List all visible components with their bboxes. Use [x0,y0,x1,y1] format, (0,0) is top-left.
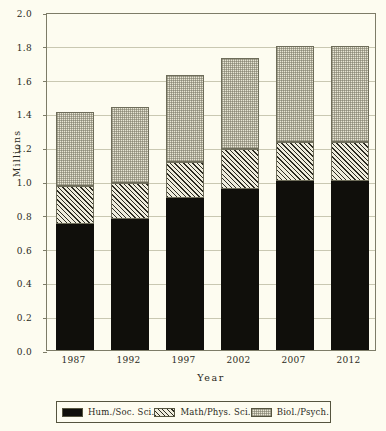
legend-entry-1[interactable]: Math/Phys. Sci. [154,407,250,417]
y-tick-mark [43,352,47,353]
chart-page: Millions 0.00.20.40.60.81.01.21.41.61.82… [0,0,386,431]
y-tick-label: 1.0 [0,178,32,188]
gridline [47,250,375,251]
gridline [47,216,375,217]
bar-segment-1997-series0 [166,198,204,350]
bar-1987 [56,12,94,350]
y-tick-mark [43,115,47,116]
y-tick-label: 0.0 [0,347,32,357]
bar-segment-1992-series1 [111,183,149,219]
x-tick-label-2007: 2007 [264,355,324,365]
legend-swatch-2 [251,408,272,417]
legend-entry-2[interactable]: Biol./Psych. [251,407,329,417]
gridline [47,183,375,184]
chart-title [0,0,386,9]
plot-area: 0.00.20.40.60.81.01.21.41.61.82.0 [46,13,376,351]
y-tick-mark [43,250,47,251]
bar-segment-2002-series2 [221,58,259,149]
x-tick-label-2002: 2002 [209,355,269,365]
legend-label-1: Math/Phys. Sci. [180,407,250,417]
legend-swatch-0 [62,408,83,417]
bar-segment-1987-series2 [56,112,94,186]
x-tick-label-2012: 2012 [319,355,379,365]
bar-segment-2007-series2 [276,46,314,142]
x-tick-label-1987: 1987 [44,355,104,365]
bar-segment-2012-series1 [331,142,369,181]
legend-label-2: Biol./Psych. [277,407,329,417]
x-tick-label-1992: 1992 [99,355,159,365]
y-tick-label: 1.8 [0,43,32,53]
y-tick-label: 0.4 [0,279,32,289]
gridline [47,115,375,116]
bar-segment-1997-series1 [166,162,204,197]
bar-2012 [331,12,369,350]
y-tick-mark [43,47,47,48]
legend-label-0: Hum./Soc. Sci. [88,407,154,417]
gridline [47,149,375,150]
bar-1992 [111,12,149,350]
y-tick-mark [43,149,47,150]
y-tick-mark [43,183,47,184]
y-tick-label: 1.2 [0,144,32,154]
y-tick-label: 0.6 [0,246,32,256]
y-tick-label: 0.8 [0,212,32,222]
y-tick-mark [43,81,47,82]
bar-segment-2002-series1 [221,149,259,189]
y-tick-label: 0.2 [0,313,32,323]
legend-entry-0[interactable]: Hum./Soc. Sci. [62,407,154,417]
gridline [47,318,375,319]
bar-segment-1987-series1 [56,186,94,224]
y-tick-label: 2.0 [0,9,32,19]
legend-swatch-1 [154,408,175,417]
bar-segment-1997-series2 [166,75,204,163]
y-tick-mark [43,216,47,217]
y-tick-label: 1.4 [0,110,32,120]
bar-2002 [221,12,259,350]
x-axis-label: Year [46,372,376,383]
bar-segment-2002-series0 [221,189,259,350]
bar-1997 [166,12,204,350]
y-tick-mark [43,284,47,285]
y-tick-mark [43,14,47,15]
gridline [47,47,375,48]
bar-segment-2012-series2 [331,46,369,142]
x-tick-label-1997: 1997 [154,355,214,365]
bar-segment-1992-series2 [111,107,149,183]
y-tick-label: 1.6 [0,77,32,87]
chart-legend: Hum./Soc. Sci.Math/Phys. Sci.Biol./Psych… [56,401,331,423]
bar-segment-2007-series0 [276,181,314,350]
bar-segment-2012-series0 [331,181,369,350]
gridline [47,284,375,285]
y-tick-mark [43,318,47,319]
bar-segment-1992-series0 [111,219,149,350]
bar-2007 [276,12,314,350]
bar-segment-1987-series0 [56,224,94,350]
gridline [47,81,375,82]
bar-segment-2007-series1 [276,142,314,181]
